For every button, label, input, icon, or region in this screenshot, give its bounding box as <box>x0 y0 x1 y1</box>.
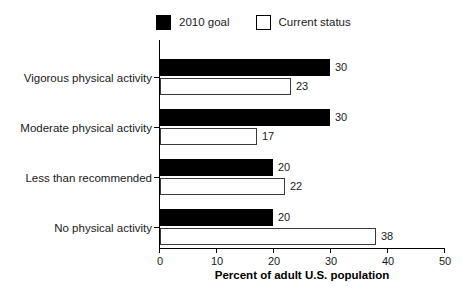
category-label-less-than-recommended: Less than recommended <box>25 172 152 185</box>
chart-legend: 2010 goal Current status <box>156 12 351 32</box>
bar-status-no-activity <box>160 228 376 245</box>
x-axis-title: Percent of adult U.S. population <box>160 268 444 282</box>
category-axis-labels: Vigorous physical activity Moderate phys… <box>0 40 152 248</box>
bar-chart-figure: 2010 goal Current status Vigorous physic… <box>0 0 462 296</box>
x-tick-20 <box>273 248 274 253</box>
bar-goal-moderate <box>160 109 330 126</box>
x-tick-label-50: 50 <box>439 255 451 267</box>
x-tick-10 <box>216 248 217 253</box>
x-tick-40 <box>387 248 388 253</box>
bar-value-goal-less-than-recommended: 20 <box>278 161 290 173</box>
bar-value-goal-no-activity: 20 <box>278 211 290 223</box>
bar-goal-vigorous <box>160 59 330 76</box>
x-tick-label-30: 30 <box>325 255 337 267</box>
bar-value-goal-moderate: 30 <box>335 111 347 123</box>
x-tick-label-10: 10 <box>211 255 223 267</box>
legend-entry-goal: 2010 goal <box>156 15 230 30</box>
plot-area: 0 10 20 30 40 50 30 23 30 17 20 22 20 38 <box>160 40 444 248</box>
hollow-square-icon <box>256 15 271 30</box>
x-tick-label-0: 0 <box>157 255 163 267</box>
x-axis-line <box>159 248 444 249</box>
category-label-moderate: Moderate physical activity <box>20 122 152 135</box>
category-label-no-activity: No physical activity <box>54 222 152 235</box>
bar-value-goal-vigorous: 30 <box>335 61 347 73</box>
legend-entry-status: Current status <box>256 15 351 30</box>
bar-goal-no-activity <box>160 209 273 226</box>
bar-value-status-vigorous: 23 <box>296 80 308 92</box>
category-label-vigorous: Vigorous physical activity <box>24 72 152 85</box>
filled-square-icon <box>156 15 171 30</box>
bar-value-status-moderate: 17 <box>262 130 274 142</box>
bar-status-vigorous <box>160 78 291 95</box>
x-tick-label-20: 20 <box>268 255 280 267</box>
x-tick-30 <box>330 248 331 253</box>
x-tick-0 <box>159 248 160 253</box>
legend-label-status: Current status <box>279 16 351 29</box>
bar-goal-less-than-recommended <box>160 159 273 176</box>
bar-status-less-than-recommended <box>160 178 285 195</box>
bar-status-moderate <box>160 128 257 145</box>
bar-value-status-less-than-recommended: 22 <box>290 180 302 192</box>
bar-value-status-no-activity: 38 <box>381 230 393 242</box>
x-tick-50 <box>444 248 445 253</box>
legend-label-goal: 2010 goal <box>179 16 230 29</box>
x-tick-label-40: 40 <box>382 255 394 267</box>
